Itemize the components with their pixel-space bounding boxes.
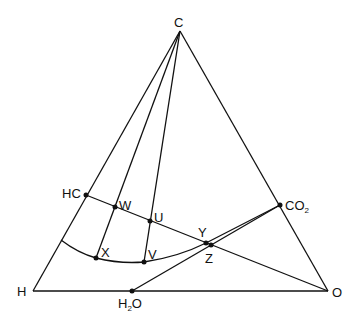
label-h: H [17, 284, 26, 299]
label-u: U [154, 210, 163, 225]
line-c-v [144, 31, 180, 262]
point-v [142, 260, 147, 265]
label-v: V [148, 247, 157, 262]
point-u [148, 219, 153, 224]
point-y [204, 241, 209, 246]
label-w: W [119, 198, 132, 213]
point-x [94, 256, 99, 261]
label-co2: CO2 [285, 198, 310, 215]
composition-curve [61, 205, 280, 263]
ternary-diagram: C H O HC W U X V Y Z CO2 H2O [0, 0, 356, 322]
label-hc: HC [62, 186, 81, 201]
label-o: O [332, 285, 342, 300]
point-co2 [278, 203, 283, 208]
label-z: Z [205, 251, 213, 266]
label-x: X [101, 245, 110, 260]
edge-c-o [180, 31, 328, 291]
point-z [209, 243, 214, 248]
label-c: C [174, 15, 183, 30]
point-hc [84, 193, 89, 198]
line-c-x [96, 31, 180, 258]
label-y: Y [198, 225, 207, 240]
point-w [113, 205, 118, 210]
label-h2o: H2O [118, 296, 142, 313]
point-h2o [130, 289, 135, 294]
